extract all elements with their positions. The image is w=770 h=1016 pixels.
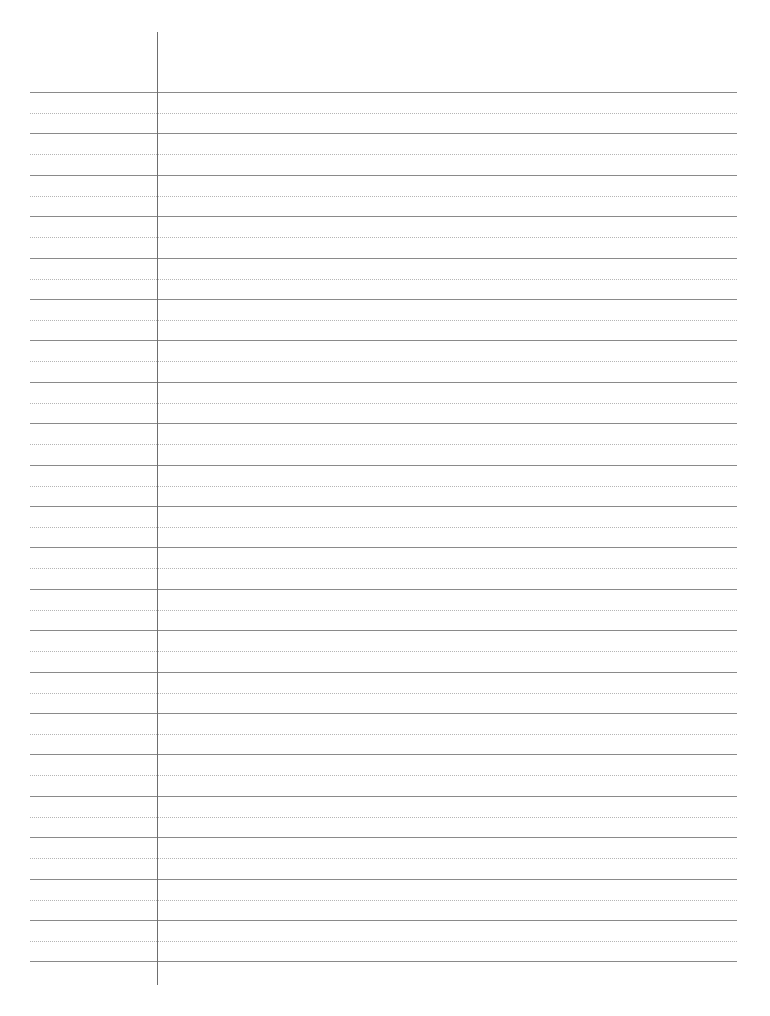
solid-rule-line xyxy=(30,630,737,631)
dotted-guide-line xyxy=(30,444,737,445)
solid-rule-line xyxy=(30,423,737,424)
solid-rule-line xyxy=(30,92,737,93)
solid-rule-line xyxy=(30,713,737,714)
dotted-guide-line xyxy=(30,154,737,155)
dotted-guide-line xyxy=(30,734,737,735)
solid-rule-line xyxy=(30,382,737,383)
dotted-guide-line xyxy=(30,403,737,404)
solid-rule-line xyxy=(30,133,737,134)
solid-rule-line xyxy=(30,754,737,755)
solid-rule-line xyxy=(30,506,737,507)
solid-rule-line xyxy=(30,216,737,217)
margin-line xyxy=(157,32,158,985)
dotted-guide-line xyxy=(30,320,737,321)
solid-rule-line xyxy=(30,961,737,962)
solid-rule-line xyxy=(30,299,737,300)
dotted-guide-line xyxy=(30,941,737,942)
dotted-guide-line xyxy=(30,113,737,114)
dotted-guide-line xyxy=(30,279,737,280)
solid-rule-line xyxy=(30,589,737,590)
dotted-guide-line xyxy=(30,568,737,569)
dotted-guide-line xyxy=(30,196,737,197)
dotted-guide-line xyxy=(30,775,737,776)
dotted-guide-line xyxy=(30,858,737,859)
dotted-guide-line xyxy=(30,527,737,528)
solid-rule-line xyxy=(30,465,737,466)
solid-rule-line xyxy=(30,340,737,341)
dotted-guide-line xyxy=(30,361,737,362)
solid-rule-line xyxy=(30,837,737,838)
dotted-guide-line xyxy=(30,486,737,487)
solid-rule-line xyxy=(30,796,737,797)
dotted-guide-line xyxy=(30,610,737,611)
solid-rule-line xyxy=(30,547,737,548)
dotted-guide-line xyxy=(30,651,737,652)
solid-rule-line xyxy=(30,175,737,176)
dotted-guide-line xyxy=(30,817,737,818)
dotted-guide-line xyxy=(30,693,737,694)
solid-rule-line xyxy=(30,920,737,921)
solid-rule-line xyxy=(30,258,737,259)
dotted-guide-line xyxy=(30,900,737,901)
lined-paper-page xyxy=(0,0,770,1016)
solid-rule-line xyxy=(30,672,737,673)
dotted-guide-line xyxy=(30,237,737,238)
solid-rule-line xyxy=(30,879,737,880)
